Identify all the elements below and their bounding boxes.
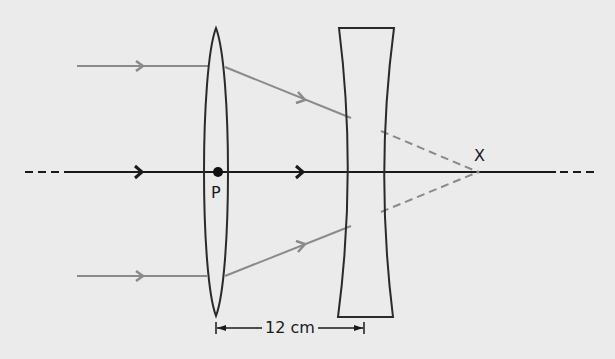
optical-center-dot xyxy=(213,167,223,177)
virtual-ray-bottom xyxy=(381,172,478,212)
focal-point-marker xyxy=(477,171,480,174)
virtual-ray-top xyxy=(381,131,478,172)
dimension-arrow-right-icon xyxy=(354,325,363,331)
ray-diagram xyxy=(0,0,615,359)
dimension-arrow-left-icon xyxy=(217,325,226,331)
refracted-ray-bottom xyxy=(225,226,351,276)
point-x-label: X xyxy=(474,148,485,164)
diagram-canvas: P X 12 cm xyxy=(0,0,615,359)
refracted-ray-top xyxy=(225,67,351,118)
incident-ray-top xyxy=(77,61,208,71)
distance-label: 12 cm xyxy=(262,320,318,336)
point-p-label: P xyxy=(211,185,221,201)
incident-ray-bottom xyxy=(77,271,207,281)
